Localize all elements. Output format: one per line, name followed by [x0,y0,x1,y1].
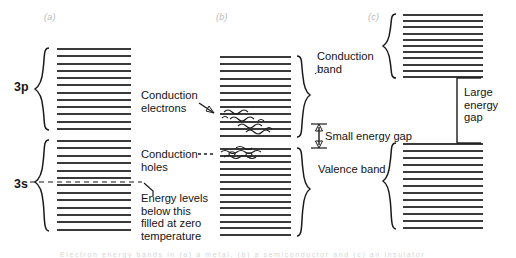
panel-letter-b: (b) [216,12,228,22]
panel-letter-c: (c) [368,12,379,22]
label-large-energy-gap: Large energy gap [464,86,498,124]
small-gap-arrowhead-up-icon [316,124,323,131]
brace-3p-icon [35,48,49,130]
cropped-caption-strip: Electron energy bands in (a) a metal, (b… [60,251,500,258]
brace-conduction-band-c-icon [383,14,396,78]
label-conduction-holes: Conduction holes [141,148,198,173]
brace-valence-band-c-icon [383,143,396,229]
label-energy-levels-note: Energy levels below this filled at zero … [141,192,208,242]
label-conduction-electrons: Conduction electrons [141,89,198,114]
small-gap-arrowhead-down-icon [316,141,323,148]
panel-letter-a: (a) [44,12,56,22]
label-small-energy-gap: Small energy gap [325,130,412,143]
leader-conduction-electrons [199,103,214,113]
band-3p-levels [57,48,131,130]
conduction-band-levels-c [403,14,483,78]
valence-band-levels-b [220,148,291,236]
brace-3s-icon [35,140,49,231]
label-3s: 3s [14,178,28,191]
label-conduction-band: Conduction band [317,50,374,75]
brace-valence-band-b-icon [297,148,310,236]
band-3s-levels [57,140,131,231]
arrowhead-conduction-electrons-icon [206,106,214,113]
brace-conduction-band-b-icon [297,56,310,137]
label-3p: 3p [14,81,28,94]
conduction-band-levels-b [220,56,291,137]
energy-band-diagram: (a) (b) (c) 3p 3s Conduction [0,0,516,258]
label-valence-band: Valence band [318,163,386,176]
valence-band-levels-c [403,143,483,229]
